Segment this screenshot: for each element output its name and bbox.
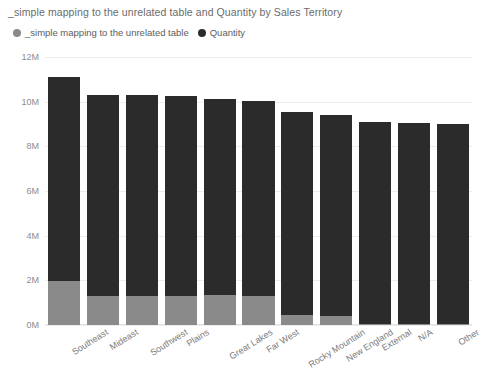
chart-visual: _simple mapping to the unrelated table a… [0,0,488,382]
bar-group[interactable] [87,95,119,325]
legend-item-quantity[interactable]: Quantity [198,27,245,38]
plot-area: 0M2M4M6M8M10M12M [45,57,472,325]
bar-segment[interactable] [87,95,119,296]
bar-group[interactable] [398,123,430,325]
bar-segment[interactable] [126,296,158,325]
bar-series-container [45,57,472,325]
y-axis-tick-label: 4M [26,231,39,241]
legend-swatch-circle-icon [198,29,206,37]
x-axis-labels: SoutheastMideastSouthwestPlainsGreat Lak… [45,327,472,382]
bar-segment[interactable] [359,324,391,325]
bar-segment[interactable] [437,324,469,325]
bar-segment[interactable] [204,99,236,294]
bar-group[interactable] [126,95,158,325]
bar-segment[interactable] [87,296,119,325]
bar-segment[interactable] [320,316,352,325]
bar-group[interactable] [437,124,469,325]
chart-title: _simple mapping to the unrelated table a… [8,6,342,18]
bar-segment[interactable] [398,123,430,324]
legend-swatch-circle-icon [13,29,21,37]
y-axis-tick-label: 2M [26,275,39,285]
bar-group[interactable] [320,115,352,325]
y-axis-tick-label: 12M [21,52,39,62]
y-axis-tick-label: 10M [21,97,39,107]
chart-legend: _simple mapping to the unrelated table Q… [13,27,245,38]
y-axis-tick-label: 6M [26,186,39,196]
bar-segment[interactable] [48,77,80,281]
bar-segment[interactable] [242,101,274,296]
x-axis-tick-label: Other [446,333,470,353]
bar-segment[interactable] [437,124,469,324]
y-axis-tick-label: 8M [26,141,39,151]
bar-segment[interactable] [48,281,80,325]
bar-segment[interactable] [320,115,352,316]
bar-group[interactable] [281,112,313,325]
bar-segment[interactable] [281,315,313,325]
bar-segment[interactable] [281,112,313,315]
y-axis-tick-label: 0M [26,320,39,330]
bar-group[interactable] [48,77,80,325]
legend-item-label: _simple mapping to the unrelated table [25,27,189,38]
bar-group[interactable] [165,96,197,325]
x-axis-tick-label: Southeast [53,338,93,368]
bar-segment[interactable] [242,296,274,325]
legend-item-simple-mapping[interactable]: _simple mapping to the unrelated table [13,27,189,38]
bar-segment[interactable] [359,122,391,324]
gridline [45,325,472,326]
legend-item-label: Quantity [210,27,245,38]
bar-group[interactable] [204,99,236,325]
bar-segment[interactable] [126,95,158,296]
x-axis-tick-label: Southwest [131,338,172,369]
x-axis-tick-label: Great Lakes [206,340,253,374]
bar-segment[interactable] [165,96,197,296]
bar-group[interactable] [359,122,391,325]
bar-group[interactable] [242,101,274,325]
bar-segment[interactable] [204,295,236,325]
bar-segment[interactable] [165,296,197,325]
bar-segment[interactable] [398,324,430,325]
